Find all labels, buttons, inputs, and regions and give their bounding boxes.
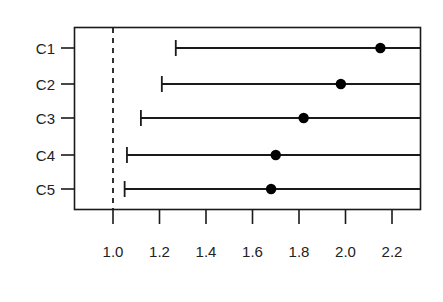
category-label-c2: C2	[36, 76, 55, 93]
x-tick-label-1.4: 1.4	[196, 243, 217, 260]
x-tick-label-2.0: 2.0	[335, 243, 356, 260]
category-label-c5: C5	[36, 181, 55, 198]
category-label-c4: C4	[36, 147, 55, 164]
estimate-marker	[266, 184, 276, 194]
x-tick-label-1.8: 1.8	[289, 243, 310, 260]
forest-plot-canvas: C1C2C3C4C5 1.01.21.41.61.82.02.2	[0, 0, 443, 302]
estimate-marker	[271, 150, 281, 160]
x-tick-label-1.0: 1.0	[103, 243, 124, 260]
x-tick-label-2.2: 2.2	[382, 243, 403, 260]
estimate-marker	[298, 113, 308, 123]
category-label-c3: C3	[36, 110, 55, 127]
forest-plot-figure: C1C2C3C4C5 1.01.21.41.61.82.02.2	[0, 0, 443, 302]
category-label-c1: C1	[36, 40, 55, 57]
x-tick-label-1.2: 1.2	[149, 243, 170, 260]
estimate-marker	[336, 79, 346, 89]
estimate-marker	[375, 43, 385, 53]
x-tick-label-1.6: 1.6	[242, 243, 263, 260]
